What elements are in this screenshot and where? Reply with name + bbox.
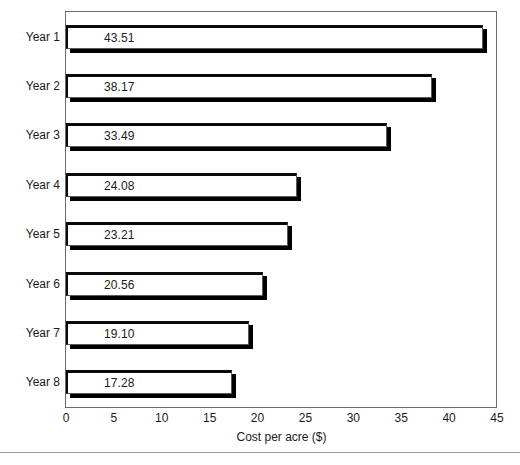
footer-divider (0, 452, 520, 453)
category-label-2: Year 2 (26, 80, 60, 92)
bar-5: 23.21 (66, 222, 497, 246)
x-tick-label-35: 35 (395, 412, 408, 424)
bar-body: 24.08 (66, 173, 297, 197)
bar-body: 23.21 (66, 222, 288, 246)
bar-value-label: 20.56 (104, 279, 135, 291)
category-label-6: Year 6 (26, 278, 60, 290)
x-axis-title: Cost per acre ($) (66, 431, 497, 443)
category-label-4: Year 4 (26, 179, 60, 191)
bar-body: 38.17 (66, 74, 432, 98)
bar-body: 43.51 (66, 25, 483, 49)
x-tick-label-5: 5 (111, 412, 118, 424)
footer-caption (2, 456, 518, 465)
category-label-5: Year 5 (26, 228, 60, 240)
x-tick-label-30: 30 (347, 412, 360, 424)
category-label-7: Year 7 (26, 327, 60, 339)
bar-body: 17.28 (66, 370, 232, 394)
bar-value-label: 38.17 (104, 81, 135, 93)
category-axis-labels: Year 1Year 2Year 3Year 4Year 5Year 6Year… (0, 12, 60, 407)
bar-6: 20.56 (66, 272, 497, 296)
bar-7: 19.10 (66, 321, 497, 345)
bar-value-label: 19.10 (104, 328, 135, 340)
bar-3: 33.49 (66, 123, 497, 147)
bar-body: 19.10 (66, 321, 249, 345)
bar-1: 43.51 (66, 25, 497, 49)
x-tick-label-25: 25 (299, 412, 312, 424)
category-label-8: Year 8 (26, 376, 60, 388)
bar-body: 20.56 (66, 272, 263, 296)
x-tick-label-45: 45 (490, 412, 503, 424)
bar-value-label: 43.51 (104, 32, 135, 44)
bar-body: 33.49 (66, 123, 387, 147)
bars-layer: 43.5138.1733.4924.0823.2120.5619.1017.28 (66, 12, 497, 407)
x-tick-label-10: 10 (155, 412, 168, 424)
bar-4: 24.08 (66, 173, 497, 197)
bar-value-label: 33.49 (104, 130, 135, 142)
category-label-1: Year 1 (26, 31, 60, 43)
bar-8: 17.28 (66, 370, 497, 394)
bar-chart: Year 1Year 2Year 3Year 4Year 5Year 6Year… (0, 0, 520, 465)
value-axis-ticks: 051015202530354045 (66, 412, 497, 430)
bar-2: 38.17 (66, 74, 497, 98)
bar-value-label: 23.21 (104, 229, 135, 241)
bar-value-label: 17.28 (104, 377, 135, 389)
x-tick-label-40: 40 (442, 412, 455, 424)
category-label-3: Year 3 (26, 129, 60, 141)
x-tick-label-15: 15 (203, 412, 216, 424)
x-tick-label-0: 0 (63, 412, 70, 424)
bar-value-label: 24.08 (104, 180, 135, 192)
x-tick-label-20: 20 (251, 412, 264, 424)
